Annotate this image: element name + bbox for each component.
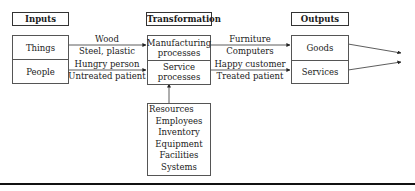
- resources-box: Resources Employees Inventory Equipment …: [147, 103, 211, 176]
- service-line-2: processes: [158, 72, 201, 82]
- arrow-services-out: [348, 62, 401, 70]
- flow-label-untreated-patient: Untreated patient: [68, 71, 146, 81]
- manufacturing-line-1: Manufacturing: [147, 38, 211, 48]
- inputs-box: Things People: [12, 35, 69, 84]
- output-goods: Goods: [292, 36, 348, 59]
- resource-systems: Systems: [148, 162, 210, 174]
- input-people: People: [13, 60, 68, 83]
- flow-label-steel-plastic: Steel, plastic: [68, 46, 146, 56]
- output-services: Services: [292, 61, 348, 83]
- resource-equipment: Equipment: [148, 139, 210, 151]
- manufacturing-processes: Manufacturing processes: [148, 37, 210, 59]
- resources-title: Resources: [148, 104, 210, 116]
- bottom-rule: [0, 183, 415, 185]
- resource-inventory: Inventory: [148, 127, 210, 139]
- flow-label-hungry-person: Hungry person: [68, 59, 146, 69]
- transformation-box: Manufacturing processes Service processe…: [147, 35, 211, 85]
- outputs-header: Outputs: [291, 12, 349, 26]
- outputs-box: Goods Services: [291, 35, 349, 84]
- service-processes: Service processes: [148, 61, 210, 83]
- flow-label-computers: Computers: [210, 46, 290, 56]
- flow-label-treated-patient: Treated patient: [210, 71, 290, 81]
- arrow-goods-out: [348, 44, 401, 53]
- resource-facilities: Facilities: [148, 150, 210, 162]
- transformation-header: Transformation: [146, 12, 212, 26]
- manufacturing-line-2: processes: [158, 48, 201, 58]
- input-things: Things: [13, 36, 68, 59]
- resource-employees: Employees: [148, 116, 210, 128]
- flow-label-happy-customer: Happy customer: [210, 59, 290, 69]
- flow-label-wood: Wood: [68, 34, 146, 44]
- inputs-header: Inputs: [12, 12, 69, 26]
- flow-label-furniture: Furniture: [210, 34, 290, 44]
- service-line-1: Service: [163, 62, 195, 72]
